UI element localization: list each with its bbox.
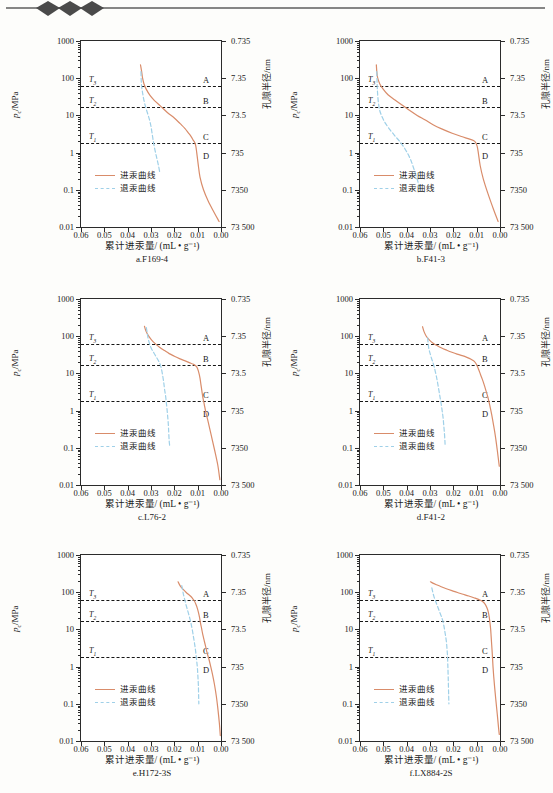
right-axis-title: 孔隙半径/nm	[260, 317, 273, 367]
intrusion-curve	[141, 65, 220, 222]
plot-area-c: 10001001010.10.010.7357.3573.5735735073 …	[80, 298, 222, 486]
right-axis-title: 孔隙半径/nm	[539, 573, 552, 623]
right-tick-label: 735	[510, 149, 553, 158]
extrusion-line-swatch	[95, 188, 115, 189]
right-tick	[500, 448, 505, 449]
y-tick-label: 10	[34, 111, 74, 120]
y-tick-label: 100	[313, 588, 353, 597]
right-tick	[500, 373, 505, 374]
legend: 进汞曲线退汞曲线	[374, 427, 435, 453]
right-tick-label: 735	[231, 149, 277, 158]
y-tick-label: 0.1	[313, 186, 353, 195]
plot-area-a: 10001001010.10.010.7357.3573.5735735073 …	[80, 40, 222, 228]
x-tick-label: 0.00	[483, 745, 517, 754]
legend-item-intrusion: 进汞曲线	[374, 427, 435, 440]
plot-area-d: 10001001010.10.010.7357.3573.5735735073 …	[359, 298, 501, 486]
right-tick	[500, 190, 505, 191]
right-tick	[221, 299, 226, 300]
right-tick-label: 7.35	[510, 332, 553, 341]
right-tick	[500, 555, 505, 556]
y-tick-label: 1000	[34, 551, 74, 560]
x-axis-title: 累计进汞量/ (mL • g⁻¹)	[321, 238, 541, 252]
y-tick-label: 100	[313, 332, 353, 341]
extrusion-line-swatch	[374, 446, 394, 447]
right-tick	[221, 411, 226, 412]
right-axis-title: 孔隙半径/nm	[260, 59, 273, 109]
y-axis-title: pc/MPa	[289, 350, 301, 376]
panel-caption: b.F41-3	[321, 254, 541, 264]
extrusion-curve	[182, 586, 199, 704]
y-tick-label: 100	[34, 588, 74, 597]
right-tick	[500, 153, 505, 154]
y-tick-label: 0.1	[313, 444, 353, 453]
y-tick-label: 1000	[34, 295, 74, 304]
right-tick	[500, 592, 505, 593]
legend-item-extrusion: 退汞曲线	[95, 696, 156, 709]
extrusion-line-swatch	[95, 446, 115, 447]
x-tick-label: 0.00	[204, 231, 238, 240]
y-tick-label: 10	[313, 625, 353, 634]
right-tick	[221, 336, 226, 337]
right-tick-label: 735	[510, 407, 553, 416]
right-tick	[500, 78, 505, 79]
right-tick	[500, 41, 505, 42]
intrusion-curve	[430, 582, 499, 735]
legend-item-intrusion: 进汞曲线	[95, 169, 156, 182]
right-tick-label: 7350	[510, 444, 553, 453]
extrusion-line-swatch	[95, 702, 115, 703]
y-tick-label: 1	[34, 407, 74, 416]
chart-panel-a: pc/MPa孔隙半径/nm累计进汞量/ (mL • g⁻¹)a.F169-410…	[2, 14, 274, 272]
legend-label-intrusion: 进汞曲线	[399, 683, 435, 696]
plot-area-f: 10001001010.10.010.7357.3573.5735735073 …	[359, 554, 501, 742]
y-tick-label: 1000	[34, 37, 74, 46]
right-tick	[221, 153, 226, 154]
legend-item-intrusion: 进汞曲线	[374, 169, 435, 182]
intrusion-line-swatch	[95, 689, 115, 690]
right-tick	[500, 629, 505, 630]
right-tick-label: 7.35	[231, 332, 277, 341]
intrusion-curve	[178, 582, 220, 736]
right-tick-label: 0.735	[231, 551, 277, 560]
legend-label-extrusion: 退汞曲线	[399, 696, 435, 709]
y-tick-label: 100	[34, 74, 74, 83]
y-tick-label: 1	[34, 149, 74, 158]
right-tick-label: 735	[231, 407, 277, 416]
right-tick	[221, 629, 226, 630]
legend-item-extrusion: 退汞曲线	[95, 182, 156, 195]
right-tick-label: 0.735	[510, 551, 553, 560]
intrusion-line-swatch	[95, 433, 115, 434]
legend-label-extrusion: 退汞曲线	[120, 440, 156, 453]
right-tick-label: 0.735	[510, 295, 553, 304]
right-tick-label: 73.5	[510, 111, 553, 120]
legend-label-extrusion: 退汞曲线	[399, 440, 435, 453]
right-axis-title: 孔隙半径/nm	[260, 573, 273, 623]
extrusion-line-swatch	[374, 702, 394, 703]
intrusion-line-swatch	[95, 175, 115, 176]
y-tick-label: 1	[313, 407, 353, 416]
right-tick-label: 7350	[231, 444, 277, 453]
y-axis-title: pc/MPa	[289, 606, 301, 632]
legend: 进汞曲线退汞曲线	[374, 683, 435, 709]
right-tick	[221, 190, 226, 191]
y-tick-label: 100	[34, 332, 74, 341]
right-tick	[221, 555, 226, 556]
right-tick	[221, 41, 226, 42]
y-tick-label: 1000	[313, 37, 353, 46]
legend-label-intrusion: 进汞曲线	[120, 683, 156, 696]
right-tick-label: 73.5	[231, 625, 277, 634]
legend: 进汞曲线退汞曲线	[95, 427, 156, 453]
right-tick	[221, 592, 226, 593]
y-tick-label: 10	[313, 369, 353, 378]
y-tick-label: 10	[34, 369, 74, 378]
panel-caption: c.L76-2	[42, 512, 262, 522]
legend-item-intrusion: 进汞曲线	[95, 427, 156, 440]
x-axis-title: 累计进汞量/ (mL • g⁻¹)	[42, 238, 262, 252]
right-tick-label: 0.735	[231, 295, 277, 304]
x-axis-title: 累计进汞量/ (mL • g⁻¹)	[321, 752, 541, 766]
right-tick	[500, 336, 505, 337]
x-tick-label: 0.00	[204, 745, 238, 754]
x-axis-title: 累计进汞量/ (mL • g⁻¹)	[42, 752, 262, 766]
y-axis-title: pc/MPa	[289, 92, 301, 118]
y-tick-label: 1000	[313, 295, 353, 304]
intrusion-line-swatch	[374, 689, 394, 690]
